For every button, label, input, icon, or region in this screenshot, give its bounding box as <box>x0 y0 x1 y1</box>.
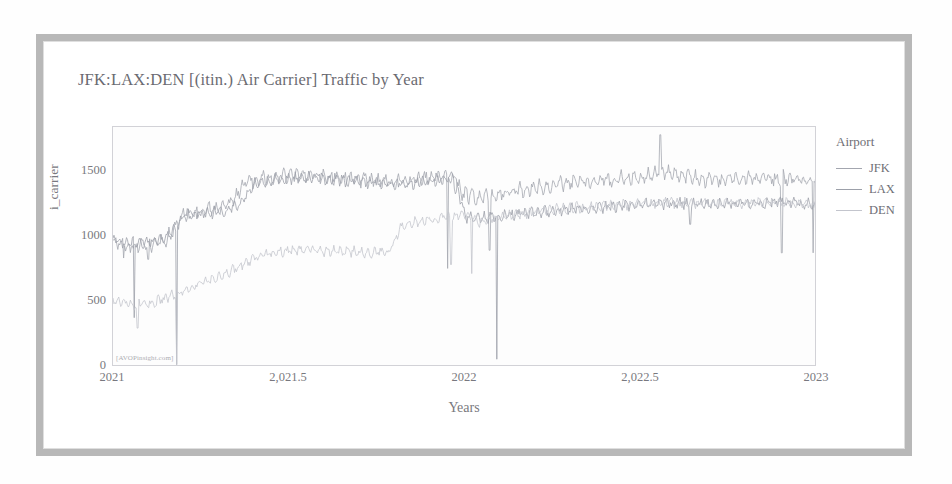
x-axis-tick-labels: 20212,021.520222,022.52023 <box>112 370 816 392</box>
plot-area <box>112 126 816 366</box>
legend-items: JFKLAXDEN <box>836 158 936 221</box>
screenshot-page: JFK:LAX:DEN [(itin.) Air Carrier] Traffi… <box>0 0 952 484</box>
chart-title: JFK:LAX:DEN [(itin.) Air Carrier] Traffi… <box>78 70 424 90</box>
x-tick-label: 2,022.5 <box>621 370 659 385</box>
series-line-jfk <box>113 135 816 269</box>
x-tick-label: 2,021.5 <box>269 370 307 385</box>
legend-item-lax[interactable]: LAX <box>836 179 936 200</box>
legend-title: Airport <box>836 134 936 150</box>
series-line-lax <box>113 171 816 364</box>
y-tick-label: 1500 <box>81 163 106 178</box>
x-tick-label: 2022 <box>452 370 477 385</box>
legend-swatch-icon <box>836 168 862 169</box>
x-tick-label: 2023 <box>804 370 829 385</box>
legend-label: LAX <box>869 182 895 197</box>
legend-swatch-icon <box>836 210 862 211</box>
x-tick-label: 2021 <box>100 370 125 385</box>
plot-svg <box>113 127 816 366</box>
watermark-text: [AVOPinsight.com] <box>116 354 173 362</box>
legend: Airport JFKLAXDEN <box>836 134 936 221</box>
x-axis-title: Years <box>112 400 816 416</box>
legend-item-jfk[interactable]: JFK <box>836 158 936 179</box>
legend-item-den[interactable]: DEN <box>836 200 936 221</box>
legend-swatch-icon <box>836 189 862 190</box>
y-axis-tick-labels: 050010001500 <box>60 126 106 366</box>
y-tick-label: 500 <box>87 293 106 308</box>
legend-label: DEN <box>869 203 895 218</box>
series-line-den <box>113 197 816 365</box>
y-tick-label: 1000 <box>81 228 106 243</box>
legend-label: JFK <box>869 161 890 176</box>
